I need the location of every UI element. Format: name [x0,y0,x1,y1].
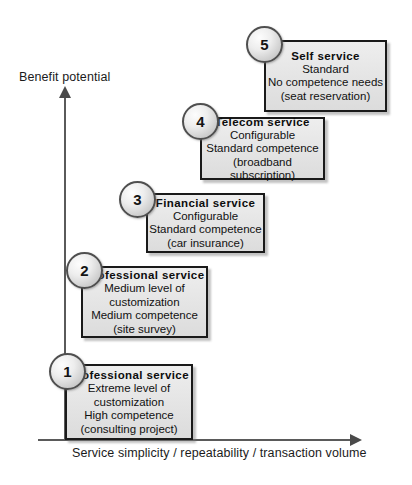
step-line-2-2: customization [109,296,179,310]
step-line-5-2: No competence needs [268,76,383,90]
step-line-1-4: (consulting project) [80,423,177,437]
step-title-4: Telecom service [215,115,310,129]
y-axis-arrow-icon [59,86,71,98]
step-number-3: 3 [133,192,141,207]
step-line-5-3: (seat reservation) [281,90,370,104]
y-axis-label: Benefit potential [19,70,110,84]
step-title-5: Self service [291,49,360,63]
step-badge-1[interactable]: 1 [49,353,86,390]
step-line-3-3: (car insurance) [167,237,244,251]
step-line-1-1: Extreme level of [88,382,170,396]
x-axis-arrow-icon [350,434,362,446]
step-badge-2[interactable]: 2 [66,252,103,289]
step-number-4: 4 [196,114,204,129]
step-line-1-2: customization [94,396,164,410]
step-badge-3[interactable]: 3 [119,181,156,218]
step-number-5: 5 [260,37,268,52]
step-badge-5[interactable]: 5 [246,26,283,63]
step-line-2-4: (site survey) [113,323,176,337]
step-line-2-3: Medium competence [91,309,198,323]
step-box-4[interactable]: Telecom service Configurable Standard co… [200,117,325,180]
step-line-4-4: subscription) [230,169,295,183]
step-line-1-3: High competence [84,409,174,423]
step-title-1: Professional service [69,368,189,382]
step-line-4-2: Standard competence [206,142,319,156]
step-line-3-1: Configurable [173,210,238,224]
x-axis-label: Service simplicity / repeatability / tra… [72,446,367,460]
step-number-1: 1 [63,364,71,379]
step-line-4-3: (broadband [233,156,292,170]
step-badge-4[interactable]: 4 [182,103,219,140]
step-title-3: Financial service [156,196,256,210]
step-line-2-1: Medium level of [104,282,185,296]
step-line-5-1: Standard [302,63,349,77]
step-line-3-2: Standard competence [149,223,262,237]
step-line-4-1: Configurable [230,129,295,143]
diagram-canvas: Benefit potential Service simplicity / r… [0,0,412,485]
step-number-2: 2 [80,263,88,278]
step-box-5[interactable]: Self service Standard No competence need… [264,40,387,112]
step-box-3[interactable]: Financial service Configurable Standard … [146,193,265,253]
